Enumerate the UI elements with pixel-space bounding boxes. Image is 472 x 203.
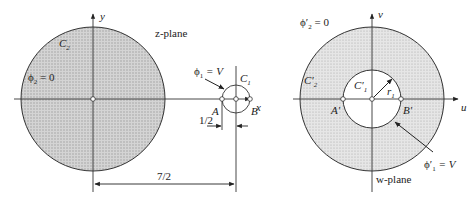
phi1-pointer-arrow: [205, 79, 224, 89]
z-plane: y x z-plane C2 ϕ2 = 0 ϕ1 = V C1 A B 1/2 …: [14, 10, 261, 192]
conformal-mapping-diagram: y x z-plane C2 ϕ2 = 0 ϕ1 = V C1 A B 1/2 …: [0, 0, 472, 203]
point-a-prime: [341, 97, 346, 102]
phi1-label: ϕ1 = V: [194, 65, 224, 80]
dim-seven-half-label: 7/2: [157, 170, 171, 182]
origin-point: [91, 97, 96, 102]
point-a: [220, 97, 225, 102]
y-axis-label: y: [99, 10, 105, 22]
phi2-prime-label: ϕ′2 = 0: [300, 16, 329, 31]
point-b: [248, 97, 253, 102]
point-a-prime-label: A′: [330, 104, 341, 116]
point-b-prime-label: B′: [403, 104, 413, 116]
dim-half-label: 1/2: [199, 114, 213, 126]
small-circle-center: [234, 97, 239, 102]
c1-label: C1: [240, 72, 251, 87]
w-origin-point: [370, 97, 375, 102]
z-plane-label: z-plane: [155, 27, 187, 39]
point-b-label: B: [251, 105, 258, 117]
u-axis-label: u: [461, 101, 467, 113]
w-plane: v u ϕ′2 = 0 C′2 C′1 r1 A′ B′ ϕ′1 = V w-p…: [293, 8, 467, 192]
point-b-prime: [399, 97, 404, 102]
w-plane-label: w-plane: [376, 173, 412, 185]
phi1-prime-label: ϕ′1 = V: [424, 158, 457, 173]
v-axis-label: v: [378, 8, 383, 20]
